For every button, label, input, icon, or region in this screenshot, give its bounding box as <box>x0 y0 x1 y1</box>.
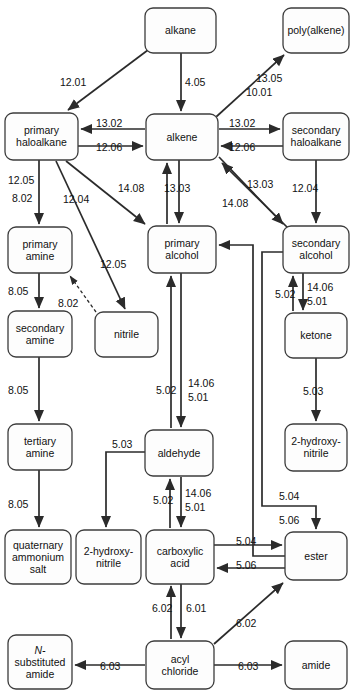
edge-label-carboxylic-acid-to-acyl-chloride: 6.01 <box>186 602 207 614</box>
edge-label-alkene-to-secondary-alcohol: 13.03 <box>247 178 273 190</box>
node-label: ester <box>304 550 328 562</box>
node-n-substituted-amide[interactable]: N-substitutedamide <box>8 635 72 689</box>
node-primary-amine[interactable]: primaryamine <box>8 227 72 273</box>
edge-label-primary-alcohol-to-alkene: 14.08 <box>118 182 144 194</box>
edge-label-aldehyde-to-carboxylic-acid: 5.01 <box>185 501 206 513</box>
node-label: alkane <box>165 24 196 36</box>
edge-label-ketone-to-2-hydroxynitrile-top: 5.03 <box>303 385 324 397</box>
edge-label-carboxylic-acid-to-ester: 5.04 <box>236 535 257 547</box>
node-secondary-haloalkane[interactable]: secondaryhaloalkane <box>283 113 349 160</box>
edge-label-secondary-alcohol-to-alkene: 14.08 <box>222 197 248 209</box>
diagram-canvas: alkanepoly(alkene)primaryhaloalkanealken… <box>0 0 353 694</box>
node-label: tertiaryamine <box>24 435 57 459</box>
node-secondary-alcohol[interactable]: secondaryalcohol <box>283 226 349 273</box>
node-ester[interactable]: ester <box>285 532 347 580</box>
edge-label-aldehyde-to-2-hydroxynitrile-bot: 5.03 <box>112 438 133 450</box>
node-label: secondaryhaloalkane <box>291 124 342 148</box>
node-alkene[interactable]: alkene <box>146 114 218 160</box>
edge-label-primary-haloalkane-to-primary-amine: 8.02 <box>12 192 33 204</box>
node-ketone[interactable]: ketone <box>285 313 347 358</box>
node-label: ketone <box>300 329 332 341</box>
node-aldehyde[interactable]: aldehyde <box>145 430 213 476</box>
reaction-pathway-diagram: alkanepoly(alkene)primaryhaloalkanealken… <box>0 0 353 694</box>
edge-label-acyl-chloride-to-carboxylic-acid: 6.02 <box>152 602 173 614</box>
node-nitrile[interactable]: nitrile <box>95 312 158 357</box>
node-polyalkene[interactable]: poly(alkene) <box>283 8 349 53</box>
edge-label-alkene-to-polyalkene: 13.05 <box>256 72 282 84</box>
edge-label-alkane-to-primary-haloalkane: 12.01 <box>60 76 86 88</box>
edge-label-alkene-to-primary-haloalkane: 13.02 <box>96 117 122 129</box>
edge-label-secondary-haloalkane-to-secondary-alcohol: 12.04 <box>292 182 318 194</box>
edge-label-ketone-to-secondary-alcohol: 5.02 <box>275 288 296 300</box>
edge-label-secondary-haloalkane-to-alkene: 12.06 <box>229 141 255 153</box>
edge-label-acyl-chloride-to-amide: 6.03 <box>238 660 259 672</box>
node-acyl-chloride[interactable]: acylchloride <box>146 641 214 689</box>
edge-label-alkene-to-polyalkene: 10.01 <box>246 86 272 98</box>
edge-label-primary-haloalkane-to-primary-alcohol: 12.04 <box>63 193 89 205</box>
edge-label-secondary-amine-to-tertiary-amine: 8.05 <box>8 384 29 396</box>
node-quaternary-salt[interactable]: quaternaryammoniumsalt <box>5 530 71 584</box>
node-2-hydroxynitrile-top[interactable]: 2-hydroxy-nitrile <box>285 424 347 471</box>
node-label: primaryamine <box>22 238 58 262</box>
node-label: poly(alkene) <box>287 24 344 36</box>
edge-secondary-alcohol-to-alkene <box>222 163 288 228</box>
edge-label-acyl-chloride-to-n-substituted-amide: 6.03 <box>100 660 121 672</box>
node-label: aldehyde <box>158 447 201 459</box>
edge-label-alkene-to-primary-alcohol: 13.03 <box>164 182 190 194</box>
node-alkane[interactable]: alkane <box>145 8 216 53</box>
edge-label-primary-alcohol-to-aldehyde: 5.01 <box>188 391 209 403</box>
edge-label-secondary-alcohol-to-ester: 5.04 <box>279 490 300 502</box>
node-label: primaryalcohol <box>164 237 200 261</box>
node-label: nitrile <box>114 328 139 340</box>
edge-label-aldehyde-to-carboxylic-acid: 14.06 <box>185 487 211 499</box>
edge-label-primary-amine-to-secondary-amine: 8.05 <box>8 285 29 297</box>
edge-acyl-chloride-to-ester <box>214 583 283 644</box>
node-secondary-amine[interactable]: secondaryamine <box>8 311 72 357</box>
edge-label-primary-haloalkane-to-primary-amine: 12.05 <box>8 174 34 186</box>
edge-label-secondary-alcohol-to-ketone: 5.01 <box>307 295 328 307</box>
node-primary-haloalkane[interactable]: primaryhaloalkane <box>5 113 78 160</box>
edge-label-tertiary-amine-to-quaternary-salt: 8.05 <box>8 498 29 510</box>
node-layer: alkanepoly(alkene)primaryhaloalkanealken… <box>5 8 349 689</box>
node-carboxylic-acid[interactable]: carboxylicacid <box>146 530 214 584</box>
node-primary-alcohol[interactable]: primaryalcohol <box>148 226 216 273</box>
node-amide[interactable]: amide <box>285 641 347 689</box>
node-tertiary-amine[interactable]: tertiaryamine <box>8 424 72 470</box>
edge-label-alkane-to-alkene: 4.05 <box>185 76 206 88</box>
edge-label-aldehyde-to-primary-alcohol: 5.02 <box>156 384 177 396</box>
node-label: alkene <box>167 131 198 143</box>
edge-label-ester-to-carboxylic-acid: 5.06 <box>236 559 257 571</box>
edge-label-primary-alcohol-to-aldehyde: 14.06 <box>188 377 214 389</box>
edge-label-ester-to-primary-alcohol: 5.06 <box>279 514 300 526</box>
edge-label-nitrile-to-primary-amine: 8.02 <box>58 297 79 309</box>
edge-label-acyl-chloride-to-ester: 6.02 <box>236 617 257 629</box>
edge-label-alkene-to-secondary-haloalkane: 13.02 <box>229 117 255 129</box>
edge-label-secondary-alcohol-to-ketone: 14.06 <box>307 281 333 293</box>
edge-label-carboxylic-acid-to-aldehyde: 5.02 <box>153 494 174 506</box>
node-label: amide <box>302 659 331 671</box>
edge-aldehyde-to-2-hydroxynitrile-bot <box>106 452 145 527</box>
edge-label-primary-haloalkane-to-nitrile: 12.05 <box>100 258 126 270</box>
node-2-hydroxynitrile-bot[interactable]: 2-hydroxy-nitrile <box>76 530 141 584</box>
edge-label-primary-haloalkane-to-alkene: 12.06 <box>96 141 122 153</box>
